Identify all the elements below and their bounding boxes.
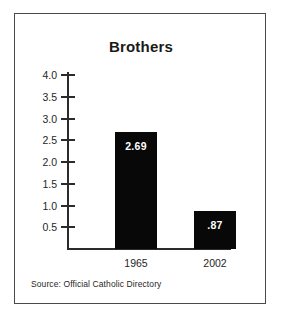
y-axis-tick-label: 4.0 (15, 70, 57, 81)
chart-figure: Brothers 0.51.01.52.02.53.03.54.0 2.69.8… (0, 0, 282, 320)
y-axis-tick-label: 2.5 (15, 135, 57, 146)
y-axis-tick-label: 1.5 (15, 179, 57, 190)
bar-value-label: 2.69 (115, 140, 157, 152)
y-axis-tick (61, 96, 75, 98)
y-axis-tick (61, 183, 75, 185)
y-axis-tick-label: 2.0 (15, 157, 57, 168)
y-axis-tick (61, 161, 75, 163)
y-axis-tick-label: 3.0 (15, 114, 57, 125)
bar-value-label: .87 (194, 219, 236, 231)
x-axis-tick-label: 2002 (185, 257, 245, 269)
chart-frame: Brothers 0.51.01.52.02.53.03.54.0 2.69.8… (14, 13, 266, 304)
y-axis-tick (61, 205, 75, 207)
y-axis-tick (61, 118, 75, 120)
y-axis-tick (61, 139, 75, 141)
y-axis-tick-label: 1.0 (15, 201, 57, 212)
bar: 2.69 (115, 132, 157, 249)
y-axis-tick (61, 226, 75, 228)
bar: .87 (194, 211, 236, 249)
y-axis-tick (61, 74, 75, 76)
plot-area: 0.51.01.52.02.53.03.54.0 2.69.87 1965200… (15, 14, 267, 305)
y-axis-tick-label: 0.5 (15, 222, 57, 233)
x-axis-tick-label: 1965 (106, 257, 166, 269)
source-note: Source: Official Catholic Directory (31, 279, 161, 289)
y-axis-tick-label: 3.5 (15, 92, 57, 103)
